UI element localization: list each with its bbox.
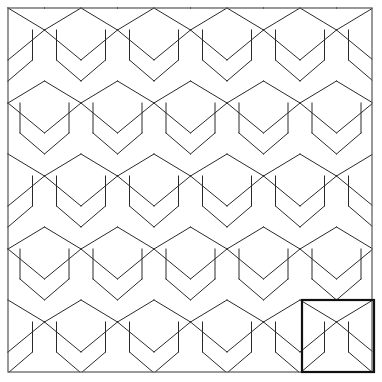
tessellation-figure: A repeating geometric tiling of elongate… [0, 0, 382, 382]
tessellation-canvas [0, 0, 382, 382]
